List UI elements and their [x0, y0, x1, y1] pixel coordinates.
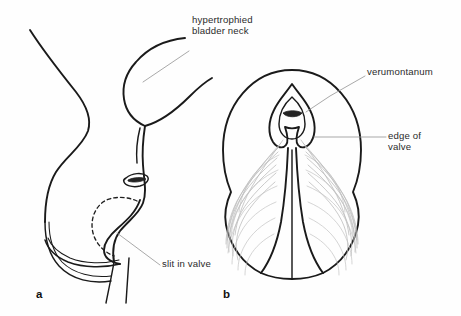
left-leaflet-fan-lines [226, 140, 283, 260]
urethra-anterior-inner-line [49, 222, 111, 276]
fan-arc [245, 234, 274, 275]
anatomy-illustration [0, 0, 461, 316]
hypertrophied-bladder-neck-outline [124, 38, 186, 126]
leader-verumontanum [306, 76, 365, 112]
distal-urethra-posterior-line [106, 262, 114, 303]
label-hypertrophied-bladder-neck: hypertrophied bladder neck [192, 14, 253, 37]
bladder-neck-lip-stroke [137, 128, 140, 163]
fan-arc [238, 218, 275, 270]
bladder-anterior-wall-outline [30, 30, 89, 222]
panel-letter-b: b [223, 288, 230, 300]
fan-arc [309, 218, 346, 270]
label-slit-in-valve: slit in valve [162, 258, 211, 269]
bladder-neck-lower-edge [145, 78, 212, 126]
right-leaflet-fan-lines [301, 140, 358, 260]
fan-arc [310, 234, 339, 275]
panel-letter-a: a [36, 288, 42, 300]
distal-urethra-anterior-line [126, 258, 129, 303]
panel-b-drawing [223, 70, 361, 279]
figure-container: hypertrophied bladder neck verumontanum … [0, 0, 461, 316]
verumontanum-slit [283, 111, 302, 117]
leader-lines [117, 51, 386, 265]
fan-line [227, 147, 279, 240]
leader-slit-in-valve [117, 233, 160, 265]
label-verumontanum: verumontanum [367, 66, 433, 77]
verumontanum-inner-outline [279, 97, 305, 139]
leader-hypertrophied-bladder-neck [143, 51, 189, 82]
fan-line [305, 147, 357, 240]
label-edge-of-valve: edge of valve [388, 130, 421, 153]
verumontanum-profile-slit [128, 178, 146, 182]
